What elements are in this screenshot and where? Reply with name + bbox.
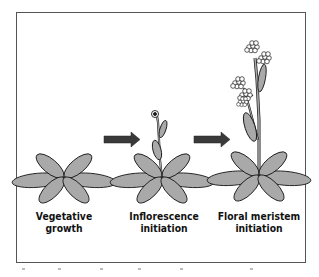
floral-plant xyxy=(207,41,312,205)
stage-label-inflorescence: Inflorescence initiation xyxy=(122,210,206,234)
cropped-text-fragment xyxy=(22,268,25,270)
stage-label-floral-meristem: Floral meristem initiation xyxy=(215,210,303,234)
arrow-icon xyxy=(104,132,140,147)
plant-development-diagram xyxy=(0,0,319,277)
stage-label-vegetative: Vegetative growth xyxy=(31,210,98,234)
vegetative-rosette xyxy=(12,150,117,207)
cropped-text-fragment xyxy=(58,268,61,270)
cropped-text-fragment xyxy=(250,268,253,270)
cropped-text-fragment xyxy=(138,268,141,270)
inflorescence-plant xyxy=(110,111,215,207)
arrow-icon xyxy=(194,132,230,147)
cropped-text-fragment xyxy=(180,268,183,270)
cropped-text-fragment xyxy=(100,268,103,270)
